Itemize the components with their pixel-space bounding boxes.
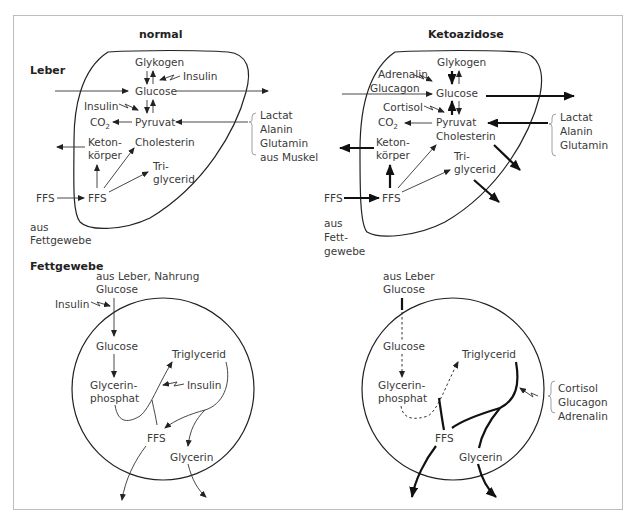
ffs-label: FFS <box>382 192 401 204</box>
title-ketoazidose: Ketoazidose <box>428 28 504 41</box>
glykogen-label: Glykogen <box>437 56 486 68</box>
insulin-label-2: Insulin <box>187 379 221 391</box>
pyruvat-label: Pyruvat <box>135 116 175 128</box>
co2-label: CO2 <box>90 116 110 131</box>
keton-label: Keton- <box>376 136 410 148</box>
ketoazidose-liver: Glykogen Adrenalin Glucagon Glucose Cort… <box>324 51 608 258</box>
glycerin-label: Glycerin <box>459 451 502 463</box>
normal-fat-tissue: aus Leber, Nahrung Glucose Insulin Gluco… <box>55 270 254 500</box>
source-label: aus Leber <box>383 270 435 282</box>
fettgewebe-label: Fettgewebe <box>30 234 91 246</box>
pyruvat-label: Pyruvat <box>436 116 476 128</box>
ffs-in-label: FFS <box>36 192 55 204</box>
source-glutamin: Glutamin <box>260 137 308 149</box>
glucose-label: Glucose <box>135 85 177 97</box>
ketoazidose-fat-tissue: aus Leber Glucose Glucose Glycerin- phos… <box>362 270 608 497</box>
ffs-label: FFS <box>88 192 107 204</box>
source-alanin: Alanin <box>560 125 593 137</box>
insulin-label: Insulin <box>55 298 89 310</box>
glycerinphosphat-label-1: Glycerin- <box>378 379 425 391</box>
co2-label: CO2 <box>378 116 398 131</box>
glycerin-label: Glycerin <box>170 451 213 463</box>
source-glutamin: Glutamin <box>560 139 608 151</box>
glykogen-label: Glykogen <box>135 56 184 68</box>
aus-label: aus <box>30 221 49 233</box>
cholesterin-label: Cholesterin <box>135 136 195 148</box>
source-aus-muskel: aus Muskel <box>260 151 318 163</box>
koerper-label: körper <box>376 149 411 161</box>
insulin-label-2: Insulin <box>84 100 118 112</box>
glucose-label: Glucose <box>436 87 478 99</box>
glycerinphosphat-label-2: phosphat <box>90 392 139 404</box>
normal-liver: Glykogen Insulin Glucose Insulin CO2 Pyr… <box>30 51 318 247</box>
section-fettgewebe: Fettgewebe <box>30 260 103 273</box>
cholesterin-label: Cholesterin <box>436 130 496 142</box>
tri-label: Tri- <box>453 150 470 162</box>
title-normal: normal <box>139 28 182 41</box>
ffs-label: FFS <box>147 432 166 444</box>
tri-label: Tri- <box>152 160 169 172</box>
hormone-glucagon: Glucagon <box>558 396 608 408</box>
koerper-label: körper <box>88 149 123 161</box>
keton-label: Keton- <box>88 136 122 148</box>
source-alanin: Alanin <box>260 123 293 135</box>
section-leber: Leber <box>30 64 66 77</box>
gewebe-label: gewebe <box>324 245 365 257</box>
triglycerid-label: Triglycerid <box>171 348 226 360</box>
ffs-label: FFS <box>435 432 454 444</box>
insulin-label: Insulin <box>183 70 217 82</box>
adrenalin-label: Adrenalin <box>378 68 428 80</box>
glucose-label: Glucose <box>96 340 138 352</box>
glycerinphosphat-label-1: Glycerin- <box>90 379 137 391</box>
glucose-in-label: Glucose <box>96 283 138 295</box>
glucose-in-label: Glucose <box>383 283 425 295</box>
metabolism-diagram: normal Ketoazidose Leber Fettgewebe Glyk… <box>0 0 636 526</box>
hormone-adrenalin: Adrenalin <box>558 410 608 422</box>
triglycerid-label: Triglycerid <box>461 348 516 360</box>
glycerid-label: glycerid <box>454 163 496 175</box>
source-label: aus Leber, Nahrung <box>96 270 199 282</box>
aus-label: aus <box>324 217 343 229</box>
hormone-cortisol: Cortisol <box>558 382 598 394</box>
glucagon-label: Glucagon <box>370 82 420 94</box>
fett-label: Fett- <box>324 231 348 243</box>
source-lactat: Lactat <box>560 111 593 123</box>
source-lactat: Lactat <box>260 109 293 121</box>
glycerinphosphat-label-2: phosphat <box>378 392 427 404</box>
ffs-in-label: FFS <box>324 192 343 204</box>
cortisol-label: Cortisol <box>383 101 423 113</box>
glucose-label: Glucose <box>383 340 425 352</box>
glycerid-label: glycerid <box>153 173 195 185</box>
